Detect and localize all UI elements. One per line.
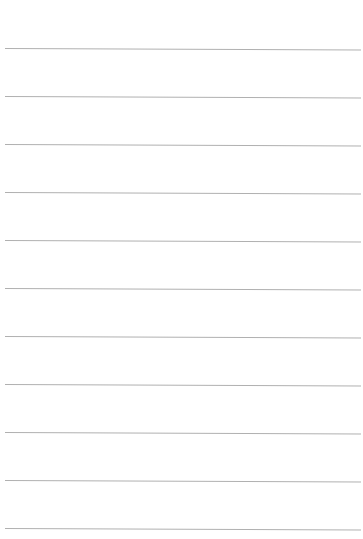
ruled-line — [5, 433, 361, 435]
ruled-line — [5, 529, 361, 531]
ruled-line — [5, 97, 361, 99]
ruled-line — [5, 241, 361, 243]
ruled-line — [5, 289, 361, 291]
ruled-line — [5, 337, 361, 339]
ruled-line — [5, 481, 361, 483]
ruled-line — [5, 385, 361, 387]
lined-paper-page — [0, 0, 363, 539]
ruled-line — [5, 193, 361, 195]
ruled-lines — [0, 0, 363, 539]
ruled-line — [5, 49, 361, 51]
ruled-line — [5, 145, 361, 147]
